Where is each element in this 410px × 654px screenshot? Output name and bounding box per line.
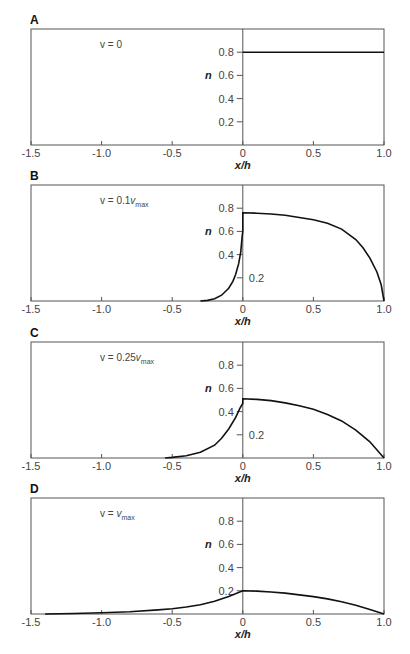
y-tick-label: 0.6 xyxy=(219,538,234,550)
x-tick-label: -1.5 xyxy=(22,616,41,628)
y-tick-label: 0.2 xyxy=(219,116,234,128)
y-axis-label: n xyxy=(205,382,212,394)
velocity-annotation: v = 0.1vmax xyxy=(100,195,149,208)
plot-frame xyxy=(31,185,384,301)
x-tick-label: -1.5 xyxy=(22,303,41,315)
annotation-text: v = xyxy=(100,508,116,519)
panel-a: A-1.5-1.0-0.500.51.0x/h0.20.40.60.8nv = … xyxy=(22,13,392,171)
y-axis-label: n xyxy=(205,538,212,550)
y-tick-label: 0.4 xyxy=(219,249,234,261)
x-tick-label: -0.5 xyxy=(163,147,182,159)
plot-frame xyxy=(31,29,384,145)
velocity-annotation: v = vmax xyxy=(100,508,135,521)
panel-d: D-1.5-1.0-0.500.51.0x/h0.20.40.60.8nv = … xyxy=(22,482,392,640)
annotation-subscript: max xyxy=(135,201,149,208)
x-axis-label: x/h xyxy=(234,628,251,640)
x-axis-label: x/h xyxy=(234,315,251,327)
panel-c: C-1.5-1.0-0.500.51.0x/h0.20.40.60.8nv = … xyxy=(22,326,392,484)
velocity-annotation: v = 0.25vmax xyxy=(100,352,155,365)
x-tick-label: -1.0 xyxy=(92,460,111,472)
x-tick-label: 0.5 xyxy=(306,303,321,315)
x-tick-label: -1.0 xyxy=(92,147,111,159)
x-tick-label: 1.0 xyxy=(376,147,391,159)
panel-letter: B xyxy=(30,169,39,183)
x-axis-label: x/h xyxy=(234,472,251,484)
data-line-d xyxy=(45,591,384,614)
annotation-subscript: max xyxy=(121,514,135,521)
annotation-text: v = xyxy=(100,39,116,50)
x-tick-label: 0 xyxy=(240,460,246,472)
panel-letter: D xyxy=(30,482,39,496)
plot-frame xyxy=(31,342,384,458)
x-tick-label: 0.5 xyxy=(306,616,321,628)
annotation-subscript: max xyxy=(141,358,155,365)
x-tick-label: 0 xyxy=(240,616,246,628)
y-tick-label: 0.4 xyxy=(219,562,234,574)
y-tick-label: 0.8 xyxy=(219,515,234,527)
x-tick-label: -1.5 xyxy=(22,147,41,159)
y-tick-label: 0.4 xyxy=(219,406,234,418)
panel-letter: C xyxy=(30,326,39,340)
x-tick-label: 1.0 xyxy=(376,303,391,315)
x-tick-label: -1.0 xyxy=(92,303,111,315)
y-tick-label: 0.4 xyxy=(219,93,234,105)
y-tick-label: 0.2 xyxy=(249,272,264,284)
y-tick-label: 0.6 xyxy=(219,225,234,237)
x-tick-label: 1.0 xyxy=(376,460,391,472)
x-tick-label: -0.5 xyxy=(163,303,182,315)
x-tick-label: -0.5 xyxy=(163,460,182,472)
panel-letter: A xyxy=(30,13,39,27)
panel-b: B-1.5-1.0-0.500.51.0x/h0.20.40.60.8nv = … xyxy=(22,169,392,327)
x-tick-label: -0.5 xyxy=(163,616,182,628)
plot-frame xyxy=(31,498,384,614)
x-tick-label: 0.5 xyxy=(306,147,321,159)
x-tick-label: 0 xyxy=(240,303,246,315)
x-tick-label: 0 xyxy=(240,147,246,159)
y-tick-label: 0.8 xyxy=(219,46,234,58)
annotation-text: v = 0.25 xyxy=(100,352,136,363)
x-tick-label: 0.5 xyxy=(306,460,321,472)
y-tick-label: 0.8 xyxy=(219,202,234,214)
y-axis-label: n xyxy=(205,69,212,81)
chart-figure: A-1.5-1.0-0.500.51.0x/h0.20.40.60.8nv = … xyxy=(0,0,410,654)
annotation-text: v = 0.1 xyxy=(100,195,131,206)
x-tick-label: -1.0 xyxy=(92,616,111,628)
x-tick-label: -1.5 xyxy=(22,460,41,472)
y-tick-label: 0.6 xyxy=(219,382,234,394)
annotation-value: 0 xyxy=(116,39,122,50)
y-tick-label: 0.8 xyxy=(219,359,234,371)
y-tick-label: 0.6 xyxy=(219,69,234,81)
velocity-annotation: v = 0 xyxy=(100,39,122,50)
data-line-c xyxy=(165,399,384,458)
y-tick-label: 0.2 xyxy=(249,429,264,441)
x-tick-label: 1.0 xyxy=(376,616,391,628)
x-axis-label: x/h xyxy=(234,159,251,171)
y-axis-label: n xyxy=(205,225,212,237)
